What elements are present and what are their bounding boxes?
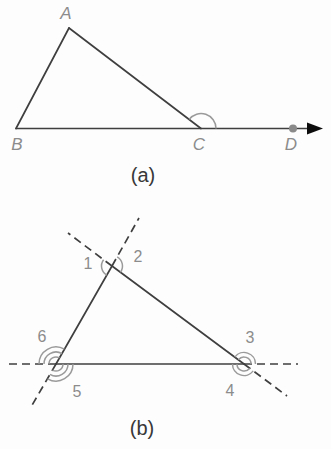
exterior-angle-arc-C — [189, 114, 216, 129]
side-top-right — [112, 266, 244, 364]
extension-downleft — [31, 364, 56, 407]
label-angle-4: 4 — [226, 382, 235, 399]
label-A: A — [59, 4, 71, 23]
angle-5-arc-outer — [48, 364, 73, 381]
side-AC — [69, 28, 201, 129]
label-angle-3: 3 — [246, 329, 255, 346]
label-D: D — [285, 135, 297, 154]
figure-b-caption: (b) — [130, 417, 154, 439]
figure-a: A B C D (a) — [11, 4, 323, 186]
label-angle-2: 2 — [134, 248, 143, 265]
angle-3-arc-outer — [235, 353, 256, 364]
side-top-left — [56, 266, 112, 364]
figure-a-caption: (a) — [131, 164, 155, 186]
extension-downright — [244, 364, 287, 396]
figure-b: 1 2 3 4 5 6 (b) — [6, 218, 298, 439]
side-AB — [16, 28, 69, 129]
geometry-diagram-page: A B C D (a) — [0, 0, 331, 449]
label-angle-1: 1 — [84, 255, 93, 272]
angle-4-arc-outer — [233, 364, 254, 375]
label-angle-6: 6 — [38, 328, 47, 345]
point-D-dot — [289, 125, 297, 133]
label-B: B — [11, 135, 22, 154]
arrowhead-icon — [307, 123, 323, 135]
diagram-svg: A B C D (a) — [0, 0, 331, 449]
label-angle-5: 5 — [73, 383, 82, 400]
label-C: C — [193, 135, 206, 154]
